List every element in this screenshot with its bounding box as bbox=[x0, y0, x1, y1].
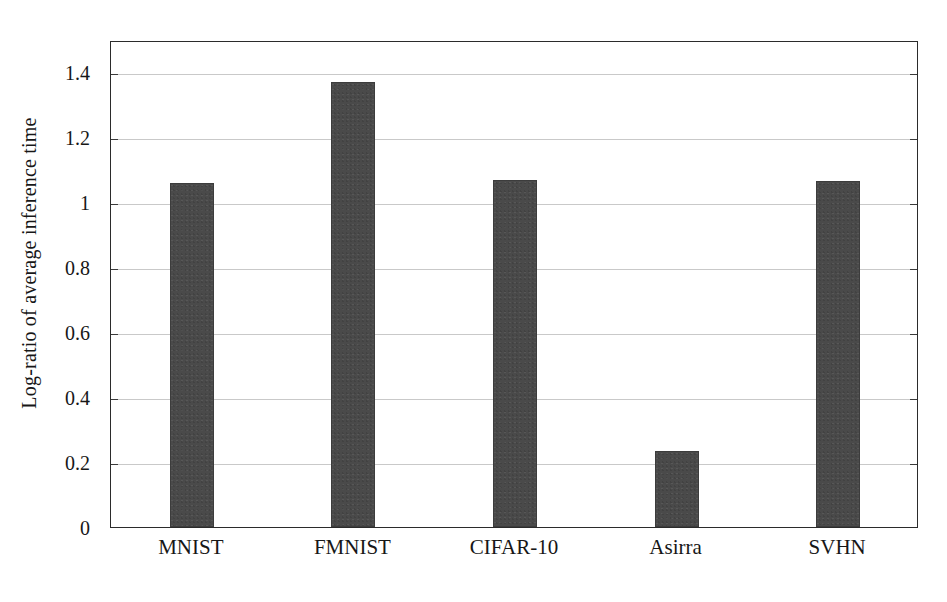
y-tick-mark bbox=[111, 334, 118, 335]
y-tick-label: 1 bbox=[80, 193, 90, 213]
y-tick-label: 0.6 bbox=[65, 323, 90, 343]
bar bbox=[170, 183, 214, 527]
y-tick-mark bbox=[910, 464, 917, 465]
x-tick-label: MNIST bbox=[158, 536, 223, 559]
x-tick-label: Asirra bbox=[649, 536, 701, 559]
gridline bbox=[111, 139, 917, 140]
y-tick-label: 1.4 bbox=[65, 63, 90, 83]
x-tick-label: CIFAR-10 bbox=[470, 536, 558, 559]
y-tick-mark bbox=[111, 269, 118, 270]
y-tick-label: 0 bbox=[80, 518, 90, 538]
plot-area bbox=[110, 41, 918, 528]
y-tick-mark bbox=[910, 139, 917, 140]
y-tick-mark bbox=[910, 334, 917, 335]
y-tick-mark bbox=[111, 399, 118, 400]
y-axis-tick-labels: 00.20.40.60.811.21.4 bbox=[0, 41, 100, 528]
bar-chart-figure: Log-ratio of average inference time 00.2… bbox=[0, 0, 947, 602]
y-tick-label: 0.2 bbox=[65, 453, 90, 473]
x-axis-tick-labels: MNISTFMNISTCIFAR-10AsirraSVHN bbox=[110, 536, 918, 576]
x-tick-label: SVHN bbox=[809, 536, 866, 559]
y-tick-mark bbox=[111, 464, 118, 465]
y-tick-mark bbox=[111, 204, 118, 205]
y-tick-label: 0.4 bbox=[65, 388, 90, 408]
bar bbox=[493, 180, 537, 527]
y-tick-mark bbox=[111, 139, 118, 140]
x-tick-label: FMNIST bbox=[314, 536, 391, 559]
bar bbox=[816, 181, 860, 527]
y-tick-mark bbox=[910, 399, 917, 400]
gridline bbox=[111, 74, 917, 75]
y-tick-mark bbox=[910, 74, 917, 75]
y-tick-mark bbox=[910, 204, 917, 205]
y-tick-mark bbox=[111, 74, 118, 75]
y-tick-mark bbox=[910, 269, 917, 270]
bar bbox=[331, 82, 375, 527]
y-tick-label: 1.2 bbox=[65, 128, 90, 148]
y-tick-label: 0.8 bbox=[65, 258, 90, 278]
bar bbox=[655, 451, 699, 527]
